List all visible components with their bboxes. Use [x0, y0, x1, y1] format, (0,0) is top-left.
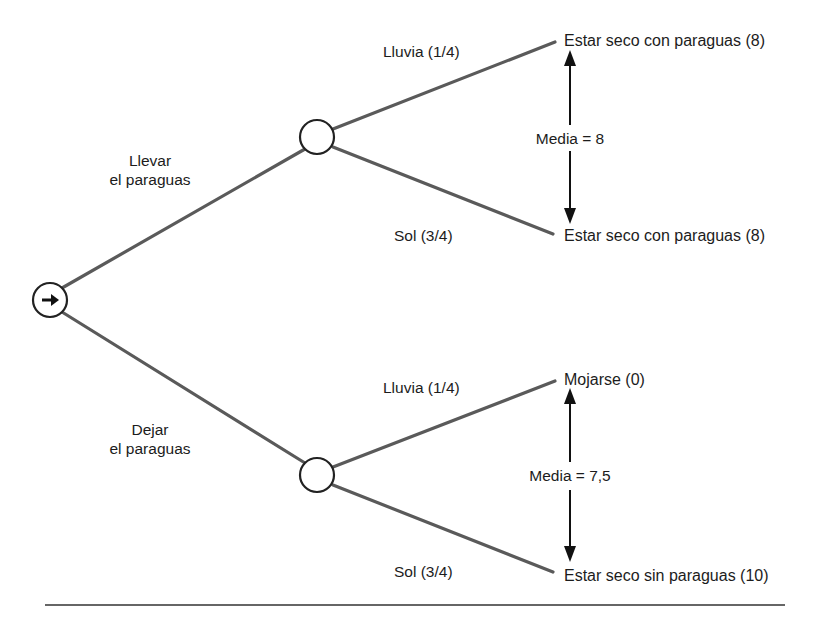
- chance-node-dejar: [300, 458, 334, 492]
- mean-label-llevar: Media = 8: [534, 129, 607, 148]
- event-label-llevar-lluvia: Lluvia (1/4): [383, 42, 460, 61]
- choice-label-dejar: Dejar el paraguas: [109, 420, 190, 458]
- choice-label-line2: el paraguas: [109, 439, 190, 458]
- event-label-dejar-lluvia: Lluvia (1/4): [383, 378, 460, 397]
- decision-tree-canvas: [0, 0, 832, 630]
- branch-llevar-sol: [333, 147, 553, 234]
- choice-label-line1: Llevar: [109, 151, 190, 170]
- outcome-llevar-sol: Estar seco con paraguas (8): [564, 226, 765, 245]
- event-label-llevar-sol: Sol (3/4): [394, 226, 453, 245]
- choice-label-line2: el paraguas: [109, 170, 190, 189]
- mean-label-dejar: Media = 7,5: [527, 466, 612, 485]
- outcome-dejar-lluvia: Mojarse (0): [564, 370, 645, 389]
- choice-label-llevar: Llevar el paraguas: [109, 151, 190, 189]
- choice-label-line1: Dejar: [109, 420, 190, 439]
- decision-node: [33, 283, 67, 317]
- branch-dejar-sol: [333, 485, 553, 572]
- outcome-llevar-lluvia: Estar seco con paraguas (8): [564, 31, 765, 50]
- outcome-dejar-sol: Estar seco sin paraguas (10): [564, 566, 769, 585]
- event-label-dejar-sol: Sol (3/4): [394, 562, 453, 581]
- chance-node-llevar: [300, 120, 334, 154]
